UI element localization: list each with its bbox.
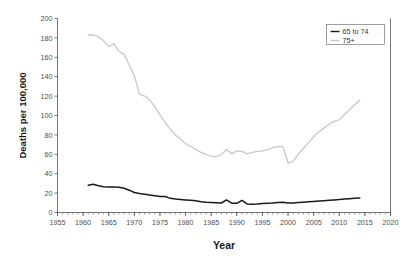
x-tick-label: 1975 (152, 218, 168, 227)
y-tick-label: 80 (45, 131, 53, 140)
y-tick-label: 200 (41, 14, 53, 23)
y-tick-label: 180 (41, 34, 53, 43)
x-tick-label: 2000 (280, 218, 296, 227)
x-tick-label: 1990 (229, 218, 245, 227)
y-tick-label: 160 (41, 53, 53, 62)
x-tick-label: 2010 (331, 218, 347, 227)
series-line-65-to-74 (88, 184, 360, 204)
legend-label: 75+ (343, 36, 355, 45)
series-line-75- (88, 35, 360, 163)
x-tick-label: 1980 (178, 218, 194, 227)
data-series-group (88, 35, 360, 204)
legend[interactable]: 65 to 7475+ (327, 25, 385, 46)
y-tick-label: 0 (49, 208, 53, 217)
y-tick-label: 20 (45, 189, 53, 198)
x-tick-label: 1960 (75, 218, 91, 227)
legend-label: 65 to 74 (343, 27, 369, 36)
y-tick-label: 40 (45, 169, 53, 178)
x-tick-label: 2015 (357, 218, 373, 227)
plot-frame (58, 19, 391, 213)
x-tick-label: 1985 (203, 218, 219, 227)
x-tick-label: 2020 (383, 218, 399, 227)
x-tick-label: 2005 (306, 218, 322, 227)
x-tick-label: 1955 (50, 218, 66, 227)
x-tick-label: 1970 (126, 218, 142, 227)
x-tick-label: 1995 (254, 218, 270, 227)
y-tick-label: 100 (41, 111, 53, 120)
line-chart: 0204060801001201401601802001955196019651… (0, 0, 415, 264)
y-tick-label: 120 (41, 92, 53, 101)
chart-figure: 0204060801001201401601802001955196019651… (0, 0, 415, 264)
y-tick-label: 140 (41, 72, 53, 81)
x-axis-title: Year (213, 239, 235, 251)
x-axis: 1955196019651970197519801985199019952000… (50, 213, 399, 227)
y-axis-title: Deaths per 100,000 (17, 72, 28, 158)
x-tick-label: 1965 (101, 218, 117, 227)
y-axis: 020406080100120140160180200 (41, 14, 58, 217)
y-tick-label: 60 (45, 150, 53, 159)
